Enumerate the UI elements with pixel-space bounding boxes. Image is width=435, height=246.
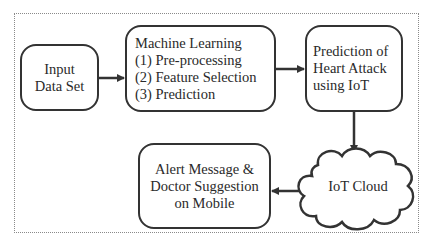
alert-message-node: Alert Message & Doctor Suggestion on Mob… bbox=[138, 143, 271, 229]
node-text: Alert Message & bbox=[155, 161, 254, 178]
node-text: Data Set bbox=[35, 78, 85, 95]
prediction-node: Prediction of Heart Attack using IoT bbox=[305, 25, 403, 112]
node-text: Doctor Suggestion bbox=[150, 178, 258, 195]
machine-learning-node: Machine Learning (1) Pre-processing (2) … bbox=[125, 25, 276, 112]
node-text: (1) Pre-processing bbox=[135, 52, 242, 69]
iot-cloud-label: IoT Cloud bbox=[300, 178, 416, 195]
input-data-set-node: Input Data Set bbox=[20, 44, 99, 111]
node-text: (2) Feature Selection bbox=[135, 69, 257, 86]
node-text: on Mobile bbox=[174, 195, 234, 212]
node-text: Input bbox=[44, 61, 75, 78]
node-text: Heart Attack bbox=[313, 60, 387, 77]
node-text: Prediction of bbox=[313, 43, 388, 60]
node-text: Machine Learning bbox=[135, 35, 242, 52]
node-text: using IoT bbox=[313, 77, 369, 94]
node-text: (3) Prediction bbox=[135, 86, 215, 103]
